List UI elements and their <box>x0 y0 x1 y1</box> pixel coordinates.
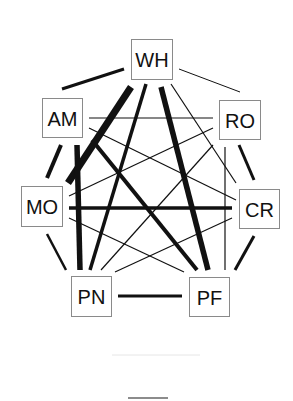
edge-am-mo <box>47 145 61 178</box>
edge-mo-pn <box>47 234 66 270</box>
node-cr: CR <box>240 190 280 229</box>
edge-wh-pf <box>161 87 208 270</box>
edge-ro-cr <box>239 145 254 180</box>
node-ro: RO <box>220 101 261 140</box>
node-label: MO <box>26 196 58 218</box>
node-label: CR <box>245 199 274 221</box>
edge-wh-ro <box>179 69 240 92</box>
network-diagram: WHAMROMOCRPNPF <box>0 0 293 401</box>
edge-ro-mo <box>69 128 213 196</box>
node-label: PN <box>78 286 106 308</box>
edge-cr-pf <box>235 236 254 270</box>
edge-cr-pn <box>115 218 232 272</box>
node-pf: PF <box>190 278 230 317</box>
node-mo: MO <box>22 187 63 227</box>
node-label: WH <box>135 49 168 71</box>
edge-wh-am <box>62 69 124 89</box>
node-label: AM <box>48 108 78 130</box>
node-wh: WH <box>132 40 173 80</box>
nodes-layer: WHAMROMOCRPNPF <box>22 40 280 317</box>
node-label: PF <box>197 287 223 309</box>
node-am: AM <box>43 99 83 138</box>
edge-mo-pf <box>69 218 184 272</box>
node-label: RO <box>225 110 255 132</box>
node-pn: PN <box>72 277 112 317</box>
